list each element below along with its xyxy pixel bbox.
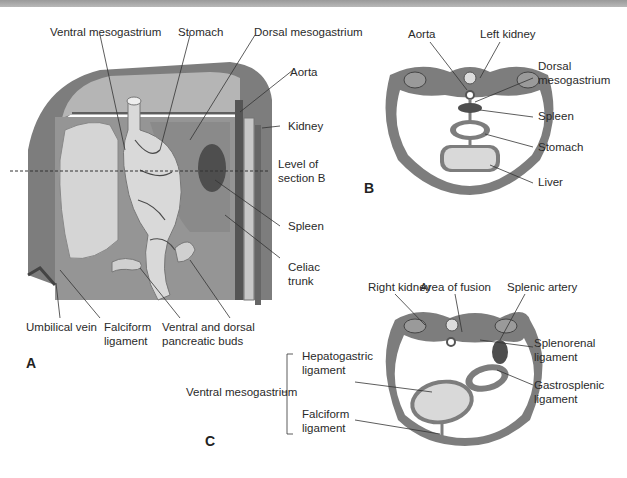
label-ventral-mesogastrium: Ventral mesogastrium: [50, 26, 161, 39]
panel-letter-a: A: [26, 355, 36, 371]
label-aorta-b: Aorta: [408, 28, 436, 41]
label-stomach: Stomach: [178, 26, 223, 39]
label-splenorenal-line1: Splenorenal: [534, 337, 595, 350]
label-level-line1: Level of: [278, 158, 318, 171]
panel-a-illustration: [10, 62, 272, 305]
panel-b-illustration: [386, 67, 554, 195]
label-spleen-b: Spleen: [538, 110, 574, 123]
label-gastrosplenic-line1: Gastrosplenic: [534, 379, 604, 392]
label-liver-b: Liver: [538, 176, 563, 189]
label-falciform-c-line1: Falciform: [302, 408, 349, 421]
panel-letter-b: B: [364, 180, 374, 196]
label-dorsal-mesogastrium: Dorsal mesogastrium: [254, 26, 363, 39]
label-dorsal-b-line2: mesogastrium: [538, 74, 610, 87]
label-umbilical-vein: Umbilical vein: [26, 321, 97, 334]
label-kidney: Kidney: [288, 120, 323, 133]
label-aorta-a: Aorta: [290, 66, 318, 79]
label-pancreatic-line1: Ventral and dorsal: [162, 321, 255, 334]
label-stomach-b: Stomach: [538, 141, 583, 154]
label-level-line2: section B: [278, 172, 325, 185]
panel-letter-c: C: [205, 433, 215, 449]
label-hepatogastric-line1: Hepatogastric: [302, 350, 373, 363]
label-gastrosplenic-line2: ligament: [534, 393, 577, 406]
label-dorsal-b-line1: Dorsal: [538, 60, 571, 73]
label-falciform-a-line1: Falciform: [104, 321, 151, 334]
label-falciform-c-line2: ligament: [302, 422, 345, 435]
label-celiac-line2: trunk: [288, 275, 314, 288]
label-hepatogastric-line2: ligament: [302, 364, 345, 377]
label-spleen-a: Spleen: [288, 220, 324, 233]
label-splenorenal-line2: ligament: [534, 351, 577, 364]
label-splenic-artery: Splenic artery: [507, 281, 577, 294]
label-area-of-fusion: Area of fusion: [420, 281, 491, 294]
label-pancreatic-line2: pancreatic buds: [162, 335, 243, 348]
label-falciform-a-line2: ligament: [104, 335, 147, 348]
label-left-kidney: Left kidney: [480, 28, 536, 41]
label-celiac-line1: Celiac: [288, 261, 320, 274]
label-ventral-mesogastrium-c: Ventral mesogastrium: [186, 386, 297, 399]
